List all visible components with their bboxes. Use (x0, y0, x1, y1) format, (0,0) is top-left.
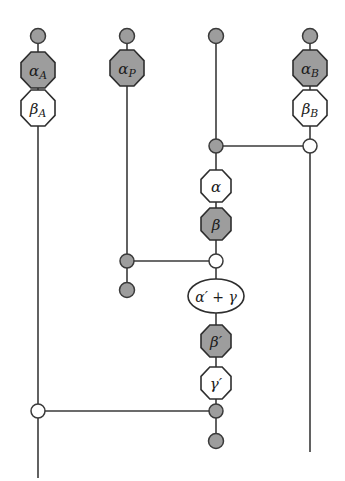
gate-beta-shape (201, 208, 231, 240)
terminal-dot-wire3-bottom[interactable] (209, 434, 224, 449)
terminal-dot-wire4-top[interactable] (303, 29, 318, 44)
terminal-dot-wire2-bottom[interactable] (120, 283, 135, 298)
control-dot-wire2[interactable] (120, 254, 134, 268)
gate-alpha-shape (201, 170, 231, 202)
nodes-layer (31, 29, 318, 449)
control-dot-wire3-lower[interactable] (209, 404, 223, 418)
gate-alpha-prime-plus-gamma[interactable]: α′ + γ (188, 279, 244, 313)
circuit-diagram: αAβAαPαBβBαβα′ + γβ′γ′ (0, 0, 345, 481)
gate-alpha-a[interactable]: αA (21, 52, 55, 88)
terminal-dot-wire3-top[interactable] (209, 29, 224, 44)
gate-alpha-a-shape (21, 52, 55, 88)
terminal-dot-wire1-top[interactable] (31, 29, 46, 44)
gate-beta-prime-shape (201, 325, 231, 357)
gate-beta[interactable]: β (201, 208, 231, 240)
gate-alpha-prime-plus-gamma-shape (188, 279, 244, 313)
gate-alpha-p[interactable]: αP (110, 50, 144, 86)
gate-beta-prime[interactable]: β′ (201, 325, 231, 357)
gate-alpha-b-shape (293, 50, 327, 86)
gate-beta-b-shape (293, 90, 327, 126)
gate-beta-a-shape (21, 90, 55, 126)
gate-alpha-p-shape (110, 50, 144, 86)
gate-beta-a[interactable]: βA (21, 90, 55, 126)
gate-alpha[interactable]: α (201, 170, 231, 202)
links-layer (38, 146, 310, 411)
target-circle-wire1[interactable] (31, 404, 45, 418)
circuit-canvas: αAβAαPαBβBαβα′ + γβ′γ′ (0, 0, 345, 481)
gate-gamma-prime-shape (201, 367, 231, 399)
terminal-dot-wire2-top[interactable] (120, 29, 135, 44)
gate-alpha-b[interactable]: αB (293, 50, 327, 86)
gates-layer: αAβAαPαBβBαβα′ + γβ′γ′ (21, 50, 327, 399)
gate-gamma-prime[interactable]: γ′ (201, 367, 231, 399)
target-circle-wire3-mid[interactable] (209, 254, 223, 268)
target-circle-wire4[interactable] (303, 139, 317, 153)
control-dot-wire3-upper[interactable] (209, 139, 223, 153)
gate-beta-b[interactable]: βB (293, 90, 327, 126)
